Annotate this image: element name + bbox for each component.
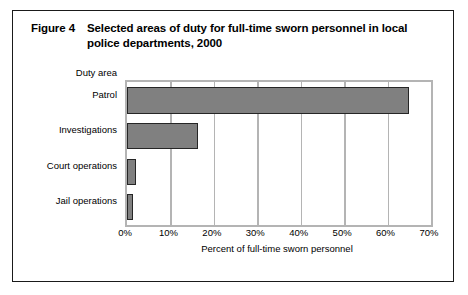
bar-row bbox=[127, 194, 431, 220]
y-axis-title: Duty area bbox=[76, 67, 117, 78]
x-tick-label-20: 20% bbox=[202, 227, 221, 238]
bar-court-operations[interactable] bbox=[127, 159, 136, 185]
plot-inner bbox=[127, 82, 431, 225]
x-tick-label-30: 30% bbox=[246, 227, 265, 238]
bar-row bbox=[127, 159, 431, 185]
bar-investigations[interactable] bbox=[127, 123, 198, 149]
y-tick-label-patrol: Patrol bbox=[92, 89, 117, 100]
y-tick-label-court-operations: Court operations bbox=[47, 160, 117, 171]
x-tick-label-10: 10% bbox=[159, 227, 178, 238]
y-tick-label-jail-operations: Jail operations bbox=[56, 195, 117, 206]
x-tick-label-70: 70% bbox=[419, 227, 438, 238]
y-axis-label-group: Duty area Patrol Investigations Court op… bbox=[13, 67, 121, 213]
x-tick-label-60: 60% bbox=[376, 227, 395, 238]
x-tick-label-0: 0% bbox=[118, 227, 132, 238]
bar-patrol[interactable] bbox=[127, 87, 409, 114]
figure-frame: Figure 4Selected areas of duty for full-… bbox=[12, 10, 454, 282]
bar-chart: Duty area Patrol Investigations Court op… bbox=[13, 11, 455, 283]
x-axis-tick-group: 0% 10% 20% 30% 40% 50% 60% 70% bbox=[125, 227, 429, 241]
bar-jail-operations[interactable] bbox=[127, 194, 133, 220]
bar-row bbox=[127, 87, 431, 114]
x-tick-label-40: 40% bbox=[289, 227, 308, 238]
plot-area bbox=[125, 80, 433, 227]
y-tick-label-investigations: Investigations bbox=[59, 124, 117, 135]
x-tick-label-50: 50% bbox=[333, 227, 352, 238]
x-axis-title: Percent of full-time sworn personnel bbox=[125, 243, 429, 254]
bar-row bbox=[127, 123, 431, 149]
